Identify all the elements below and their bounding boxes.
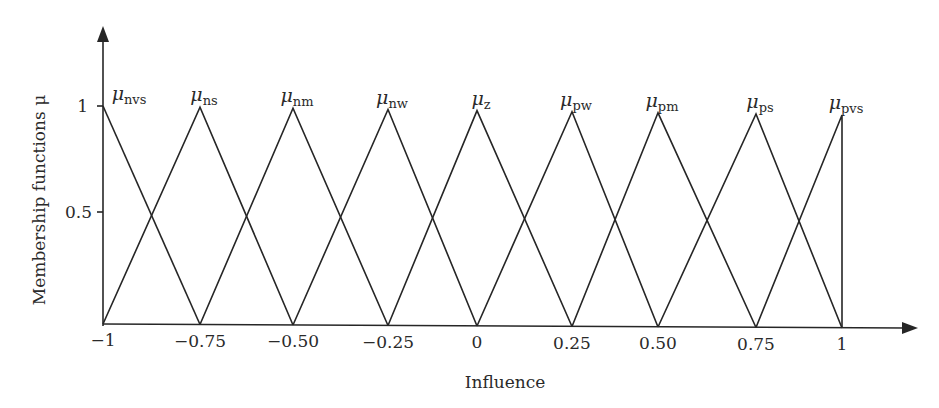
membership-function-nm	[200, 108, 388, 325]
peak-label-nw: μnw	[376, 86, 408, 111]
membership-function-chart: μnvsμnsμnmμnwμzμpwμpmμpsμpvs −1−0.75−0.5…	[0, 0, 939, 408]
x-tick-label: −0.50	[267, 331, 319, 351]
peak-label-pm: μpm	[645, 89, 678, 114]
membership-function-pw	[477, 112, 658, 327]
peak-label-nvs: μnvs	[112, 82, 147, 107]
x-tick-label: −0.75	[174, 331, 226, 351]
x-tick-label: 0.75	[737, 334, 775, 354]
y-axis-title: Membership functions μ	[29, 95, 49, 305]
series-layer	[103, 106, 842, 328]
peak-label-z: μz	[471, 87, 490, 112]
membership-function-ps	[658, 114, 842, 328]
x-axis	[103, 324, 905, 328]
y-tick-label: 1	[77, 96, 88, 116]
x-tick-label: 0.50	[639, 333, 677, 353]
x-axis-title: Influence	[465, 372, 546, 392]
peak-label-pvs: μpvs	[829, 91, 864, 116]
x-tick-label: −0.25	[362, 332, 414, 352]
x-axis-arrow-icon	[902, 322, 918, 334]
x-tick-label: −1	[90, 330, 115, 350]
peak-label-nm: μnm	[280, 84, 313, 109]
x-tick-label: 1	[837, 334, 848, 354]
membership-function-z	[388, 111, 572, 327]
membership-function-nw	[293, 110, 477, 327]
membership-function-pm	[572, 113, 756, 328]
x-tick-labels: −1−0.75−0.50−0.2500.250.500.751	[90, 330, 847, 354]
peak-labels: μnvsμnsμnmμnwμzμpwμpmμpsμpvs	[112, 82, 864, 116]
membership-function-ns	[103, 107, 293, 325]
y-tick-label: 0.5	[65, 202, 92, 222]
y-axis-arrow-icon	[97, 26, 109, 42]
x-tick-label: 0	[472, 332, 483, 352]
x-tick-label: 0.25	[553, 333, 591, 353]
peak-label-ps: μps	[746, 90, 773, 115]
peak-label-ns: μns	[190, 83, 217, 108]
peak-label-pw: μpw	[560, 88, 592, 113]
y-tick-labels: 1 0.5	[65, 96, 92, 222]
